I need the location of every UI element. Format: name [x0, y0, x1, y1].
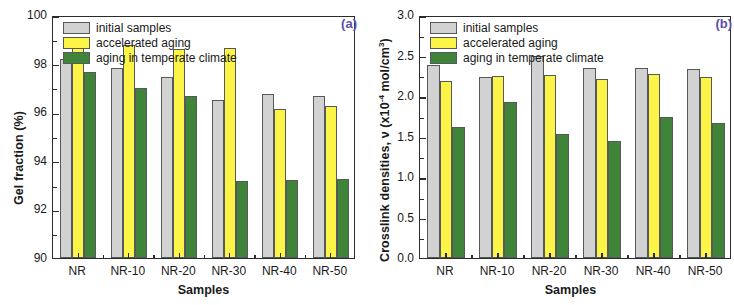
legend-item: initial samples: [430, 21, 604, 35]
y-tick-label: 1.5: [374, 130, 414, 144]
x-tick-minor: [679, 255, 680, 259]
legend-swatch: [63, 52, 90, 64]
bar: [492, 76, 504, 258]
y-tick-minor: [420, 199, 424, 200]
x-tick-major: [705, 253, 706, 258]
x-tick-major: [653, 253, 654, 258]
y-tick-minor: [53, 89, 57, 90]
y-tick-label: 100: [7, 8, 47, 22]
bar: [648, 74, 660, 258]
y-tick-minor: [53, 41, 57, 42]
x-tick-major: [330, 253, 331, 258]
y-tick-minor: [420, 37, 424, 38]
figure-two-panel-bar-charts: Gel fraction (%) Samples initial samples…: [0, 0, 734, 305]
bar: [479, 77, 491, 258]
panel-b: Crosslink densities, ν (x10-4 mol/cm3) S…: [367, 0, 734, 305]
bar: [123, 45, 135, 258]
y-tick-major: [53, 65, 59, 66]
bar: [556, 134, 568, 258]
y-tick-major: [53, 211, 59, 212]
bar: [212, 100, 224, 258]
bar: [286, 180, 298, 258]
y-tick-label: 90: [7, 251, 47, 265]
y-tick-minor: [53, 187, 57, 188]
y-tick-minor: [420, 77, 424, 78]
x-tick-minor: [204, 255, 205, 259]
legend-item: aging in temperate climate: [430, 51, 604, 65]
legend-item: accelerated aging: [430, 36, 604, 50]
bar: [185, 96, 197, 258]
legend-item: aging in temperate climate: [63, 51, 237, 65]
x-tick-major: [128, 253, 129, 258]
legend-item: initial samples: [63, 21, 237, 35]
bar: [452, 127, 464, 258]
y-tick-minor: [420, 158, 424, 159]
x-tick-label: NR: [415, 264, 475, 278]
y-tick-major: [420, 97, 426, 98]
x-tick-minor: [627, 255, 628, 259]
bar: [544, 75, 556, 258]
bar: [635, 68, 647, 258]
bar: [224, 48, 236, 258]
legend-swatch: [63, 22, 90, 34]
bar: [60, 59, 72, 258]
x-tick-major: [549, 253, 550, 258]
bar: [84, 72, 96, 258]
y-tick-label: 2.5: [374, 49, 414, 63]
bar: [700, 77, 712, 258]
panel-a-x-axis-title: Samples: [52, 283, 355, 297]
x-tick-major: [280, 253, 281, 258]
y-tick-major: [420, 138, 426, 139]
x-tick-minor: [523, 255, 524, 259]
y-tick-major: [53, 114, 59, 115]
x-tick-label: NR-20: [519, 264, 579, 278]
y-tick-label: 1.0: [374, 170, 414, 184]
y-tick-minor: [53, 235, 57, 236]
legend-label: aging in temperate climate: [96, 51, 237, 65]
x-tick-minor: [471, 255, 472, 259]
x-tick-label: NR-50: [675, 264, 734, 278]
y-tick-label: 0.5: [374, 211, 414, 225]
x-tick-label: NR-30: [571, 264, 631, 278]
bar: [596, 79, 608, 258]
y-tick-major: [420, 16, 426, 17]
x-tick-major: [445, 253, 446, 258]
x-tick-major: [78, 253, 79, 258]
bar: [531, 56, 543, 259]
bar: [427, 65, 439, 258]
bar: [313, 96, 325, 258]
x-tick-minor: [103, 255, 104, 259]
y-tick-minor: [53, 138, 57, 139]
bar: [72, 48, 84, 258]
legend: initial samplesaccelerated agingaging in…: [430, 21, 604, 65]
bar: [262, 94, 274, 258]
x-tick-minor: [305, 255, 306, 259]
x-tick-minor: [254, 255, 255, 259]
panel-a: Gel fraction (%) Samples initial samples…: [0, 0, 367, 305]
y-tick-minor: [420, 118, 424, 119]
panel-a-label: (a): [341, 16, 357, 31]
y-tick-label: 2.0: [374, 89, 414, 103]
bar: [660, 117, 672, 258]
y-tick-label: 98: [7, 57, 47, 71]
panel-b-label: (b): [715, 16, 732, 31]
x-tick-major: [601, 253, 602, 258]
y-tick-label: 92: [7, 202, 47, 216]
x-tick-label: NR-40: [623, 264, 683, 278]
legend-label: initial samples: [96, 21, 171, 35]
y-tick-label: 3.0: [374, 8, 414, 22]
legend-swatch: [430, 37, 457, 49]
legend-item: accelerated aging: [63, 36, 237, 50]
x-tick-minor: [153, 255, 154, 259]
legend-label: accelerated aging: [463, 36, 558, 50]
y-tick-major: [420, 178, 426, 179]
y-tick-label: 0.0: [374, 251, 414, 265]
y-tick-major: [420, 57, 426, 58]
x-tick-major: [229, 253, 230, 258]
legend-swatch: [430, 22, 457, 34]
y-tick-minor: [420, 239, 424, 240]
bar: [712, 123, 724, 258]
panel-b-y-axis-title: Crosslink densities, ν (x10-4 mol/cm3): [377, 38, 392, 262]
bar: [236, 181, 248, 258]
bar: [274, 109, 286, 258]
